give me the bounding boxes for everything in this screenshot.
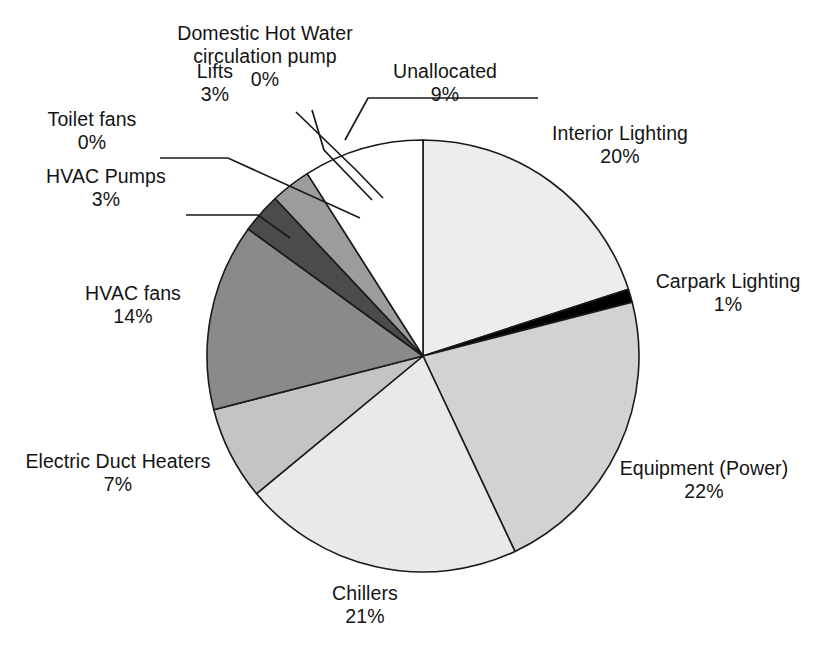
slice-label-equipment-power-name: Equipment (Power) — [604, 457, 804, 480]
slice-label-chillers: Chillers 21% — [300, 582, 430, 628]
slice-label-unallocated-name: Unallocated — [360, 60, 530, 83]
slice-label-hvac-fans: HVAC fans 14% — [58, 282, 208, 328]
slice-value-hvac-fans: 14% — [58, 305, 208, 328]
slice-label-interior-lighting: Interior Lighting 20% — [530, 122, 710, 168]
slice-value-unallocated: 9% — [360, 83, 530, 106]
slice-label-chillers-name: Chillers — [300, 582, 430, 605]
slice-label-carpark-lighting-name: Carpark Lighting — [638, 270, 818, 293]
slice-label-hvac-pumps: HVAC Pumps 3% — [26, 165, 186, 211]
slice-label-carpark-lighting: Carpark Lighting 1% — [638, 270, 818, 316]
slice-label-electric-duct-heaters: Electric Duct Heaters 7% — [4, 450, 232, 496]
slice-value-toilet-fans: 0% — [22, 131, 162, 154]
slice-label-toilet-fans-name: Toilet fans — [22, 108, 162, 131]
slice-label-domestic-hot-water-line1: Domestic Hot Water — [150, 22, 380, 45]
slice-label-equipment-power: Equipment (Power) 22% — [604, 457, 804, 503]
slice-value-carpark-lighting: 1% — [638, 293, 818, 316]
slice-label-lifts: Lifts 3% — [160, 60, 270, 106]
slice-label-unallocated: Unallocated 9% — [360, 60, 530, 106]
pie-chart-figure: Domestic Hot Water circulation pump 0% U… — [0, 0, 823, 652]
slice-value-equipment-power: 22% — [604, 480, 804, 503]
slice-label-hvac-fans-name: HVAC fans — [58, 282, 208, 305]
slice-label-lifts-name: Lifts — [160, 60, 270, 83]
slice-label-electric-duct-heaters-name: Electric Duct Heaters — [4, 450, 232, 473]
slice-value-interior-lighting: 20% — [530, 145, 710, 168]
slice-value-electric-duct-heaters: 7% — [4, 473, 232, 496]
slice-value-hvac-pumps: 3% — [26, 188, 186, 211]
slice-value-chillers: 21% — [300, 605, 430, 628]
slice-value-lifts: 3% — [160, 83, 270, 106]
slice-label-interior-lighting-name: Interior Lighting — [530, 122, 710, 145]
slice-label-toilet-fans: Toilet fans 0% — [22, 108, 162, 154]
slice-label-hvac-pumps-name: HVAC Pumps — [26, 165, 186, 188]
pie-slice-group — [207, 140, 639, 572]
